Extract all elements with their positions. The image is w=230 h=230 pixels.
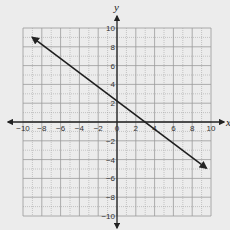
x-tick-label: 2 — [134, 124, 139, 133]
x-tick-label: 0 — [115, 124, 120, 133]
x-tick-label: 8 — [190, 124, 195, 133]
y-tick-label: −10 — [101, 212, 115, 221]
y-tick-label: 2 — [111, 99, 116, 108]
y-tick-label: −4 — [106, 156, 116, 165]
y-tick-label: −8 — [106, 193, 116, 202]
x-tick-label: −6 — [56, 124, 66, 133]
y-tick-label: 6 — [111, 62, 116, 71]
y-tick-label: 8 — [111, 43, 116, 52]
coordinate-plane: −10−8−6−4−20246810−10−8−6−4−2246810 x y — [0, 0, 230, 230]
plotted-line — [32, 37, 206, 168]
x-tick-label: 6 — [171, 124, 176, 133]
x-tick-label: 10 — [207, 124, 216, 133]
x-axis-label: x — [225, 116, 230, 128]
y-tick-label: 10 — [106, 24, 115, 33]
y-tick-label: 4 — [111, 80, 116, 89]
x-tick-label: −10 — [16, 124, 30, 133]
x-tick-label: −8 — [37, 124, 47, 133]
axes — [8, 16, 224, 228]
x-tick-label: −4 — [75, 124, 85, 133]
x-tick-label: −2 — [94, 124, 104, 133]
data-line — [32, 37, 206, 168]
y-tick-label: −2 — [106, 137, 116, 146]
y-axis-label: y — [113, 1, 119, 13]
y-tick-label: −6 — [106, 174, 116, 183]
